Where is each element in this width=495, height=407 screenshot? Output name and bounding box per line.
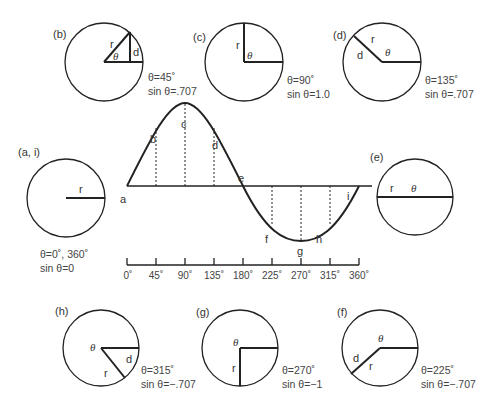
panel-f-label: (f) [337,306,347,318]
panel-d-sine: sin θ=.707 [425,88,474,100]
tick-90: 90˚ [178,270,192,281]
wave-point-i: i [347,190,349,202]
tick-0: 0˚ [124,270,133,281]
panel-g-label: (g) [196,306,209,318]
wave-point-b: b [150,133,156,145]
panel-h-r: r [104,367,108,379]
tick-180: 180˚ [233,270,253,281]
tick-135: 135˚ [204,270,224,281]
wave-point-g: g [297,245,303,257]
panel-d-theta: θ [385,46,391,58]
panel-b-angle: θ=45˚ [148,71,175,83]
panel-g-theta: θ [233,336,239,348]
phasor-b [65,23,143,101]
wave-point-d: d [212,139,218,151]
panel-b-theta: θ [113,50,119,62]
tick-360: 360˚ [349,270,369,281]
phasor-d [343,23,421,101]
panel-e-r: r [390,182,394,194]
panel-c-theta: θ [247,49,253,61]
panel-b-label: (b) [53,28,66,40]
panel-f-sine: sin θ=−.707 [421,378,476,390]
panel-c-label: (c) [193,31,206,43]
panel-h-angle: θ=315˚ [141,364,174,376]
panel-b-d: d [133,46,139,58]
tick-45: 45˚ [149,270,163,281]
tick-225: 225˚ [262,270,282,281]
panel-e-theta: θ [411,182,417,194]
phasor-e [377,159,453,235]
panel-d-d: d [357,49,363,61]
phasor-a-i [27,159,105,237]
wave-point-c: c [181,118,187,130]
panel-b-sine: sin θ=.707 [148,85,197,97]
panel-b-r: r [110,38,114,50]
degree-axis [127,258,359,265]
wave-point-f: f [265,233,269,245]
phasor-g [202,310,278,386]
panel-c-angle: θ=90˚ [287,74,314,86]
tick-270: 270˚ [291,270,311,281]
phasor-h [63,310,139,386]
panel-g-r: r [232,362,236,374]
phasor-c [205,23,283,101]
wave-point-h: h [316,233,322,245]
phasor-f [342,310,418,386]
panel-a-i-label: (a, i) [18,146,40,158]
panel-f-r: r [369,360,373,372]
panel-a-i-angle: θ=0˚, 360˚ [40,248,88,260]
panel-d-angle: θ=135˚ [425,74,458,86]
panel-g-angle: θ=270˚ [282,364,315,376]
panel-d-r: r [371,33,375,45]
wave-point-a: a [120,193,127,205]
sine-wave [127,103,372,241]
wave-point-e: e [238,172,244,184]
panel-a-i-sine: sin θ=0 [40,262,74,274]
panel-f-angle: θ=225˚ [421,364,454,376]
panel-d-label: (d) [333,29,346,41]
panel-f-d: d [353,352,359,364]
panel-h-d: d [126,353,132,365]
panel-g-sine: sin θ=−1 [282,378,322,390]
panel-f-theta: θ [378,332,384,344]
panel-a-i-r: r [79,183,83,195]
panel-c-r: r [236,39,240,51]
sine-phasor-diagram: (b) r θ d θ=45˚ sin θ=.707 (c) r θ θ=90˚… [0,0,495,407]
panel-c-sine: sin θ=1.0 [287,88,330,100]
panel-e-label: (e) [370,151,383,163]
panel-h-sine: sin θ=−.707 [141,378,196,390]
panel-h-label: (h) [55,305,68,317]
panel-h-theta: θ [90,341,96,353]
tick-315: 315˚ [320,270,340,281]
